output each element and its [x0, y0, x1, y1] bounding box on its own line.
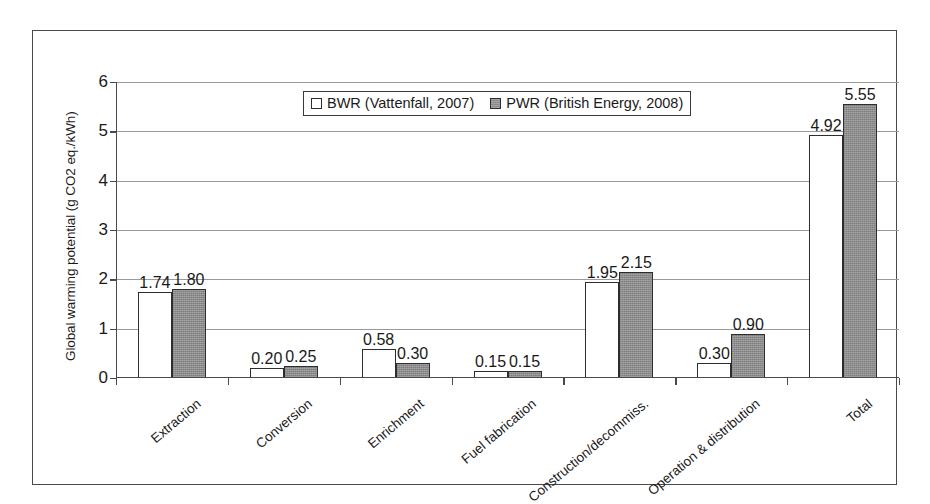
- gray-square-icon: [490, 98, 501, 109]
- bar-value-label: 5.55: [844, 86, 875, 104]
- x-tick-mark: [228, 378, 229, 385]
- bar-value-label: 0.20: [251, 350, 282, 368]
- bar-value-label: 1.95: [587, 264, 618, 282]
- x-tick-mark: [340, 378, 341, 385]
- x-category-label: Construction/decommiss.: [525, 396, 651, 504]
- x-axis-line: [116, 377, 899, 379]
- bar-value-label: 0.90: [733, 316, 764, 334]
- gridline: [116, 230, 899, 231]
- y-axis-title: Global warming potential (g CO2 eq./kWh): [63, 61, 85, 361]
- bar: 1.80: [172, 289, 206, 378]
- bar-value-label: 0.15: [509, 353, 540, 371]
- bar-value-label: 4.92: [810, 117, 841, 135]
- legend-entry: PWR (British Energy, 2008): [490, 95, 683, 111]
- chart-frame: Global warming potential (g CO2 eq./kWh)…: [32, 30, 897, 485]
- x-category-label: Fuel fabrication: [459, 396, 539, 467]
- y-tick-label: 6: [99, 72, 108, 92]
- x-tick-mark: [116, 378, 117, 385]
- gridline: [116, 329, 899, 330]
- x-tick-mark: [899, 378, 900, 385]
- y-axis-line: [116, 82, 117, 378]
- x-tick-mark: [787, 378, 788, 385]
- plot-area: 0123456 1.741.800.200.250.580.300.150.15…: [116, 82, 899, 378]
- x-tick-mark: [563, 378, 564, 385]
- y-tick-label: 4: [99, 171, 108, 191]
- bar: 2.15: [619, 272, 653, 378]
- y-tick-label: 0: [99, 368, 108, 388]
- bar-value-label: 0.58: [363, 331, 394, 349]
- y-tick-label: 5: [99, 121, 108, 141]
- y-tick-label: 2: [99, 269, 108, 289]
- x-category-label: Conversion: [253, 396, 315, 451]
- bar: 1.74: [138, 292, 172, 378]
- y-tick-label: 3: [99, 220, 108, 240]
- chart-legend: BWR (Vattenfall, 2007)PWR (British Energ…: [303, 91, 691, 116]
- bar: 5.55: [843, 104, 877, 378]
- legend-label: BWR (Vattenfall, 2007): [327, 95, 474, 111]
- gridline: [116, 181, 899, 182]
- gridline: [116, 131, 899, 132]
- legend-label: PWR (British Energy, 2008): [506, 95, 683, 111]
- x-category-label: Extraction: [148, 396, 204, 446]
- bar: 0.90: [731, 334, 765, 378]
- x-category-label: Total: [843, 396, 874, 426]
- bar-value-label: 0.15: [475, 353, 506, 371]
- bar-value-label: 0.25: [285, 348, 316, 366]
- bar-value-label: 1.74: [139, 274, 170, 292]
- gridline: [116, 279, 899, 280]
- gridline: [116, 82, 899, 83]
- x-tick-mark: [452, 378, 453, 385]
- bar: 1.95: [585, 282, 619, 378]
- bar: 0.58: [362, 349, 396, 378]
- y-tick-label: 1: [99, 319, 108, 339]
- white-square-icon: [311, 98, 322, 109]
- legend-entry: BWR (Vattenfall, 2007): [311, 95, 474, 111]
- bar-value-label: 0.30: [699, 345, 730, 363]
- bar-value-label: 1.80: [173, 271, 204, 289]
- x-category-label: Operation & distribution: [645, 396, 763, 498]
- bar-value-label: 0.30: [397, 345, 428, 363]
- x-tick-mark: [675, 378, 676, 385]
- bar: 4.92: [809, 135, 843, 378]
- bar-value-label: 2.15: [621, 254, 652, 272]
- x-category-label: Enrichment: [365, 396, 427, 451]
